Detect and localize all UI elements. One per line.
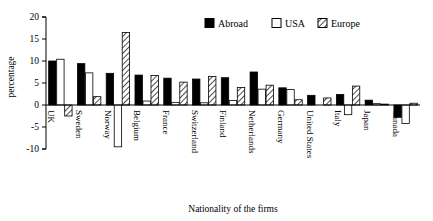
bar-abroad (193, 79, 200, 105)
bar-europe (266, 85, 273, 105)
y-axis-title-label: percentage (6, 56, 16, 97)
y-tick-label: 5 (34, 78, 39, 88)
category-label: UK (46, 110, 56, 123)
bar-europe (151, 76, 158, 105)
bar-abroad (164, 78, 171, 105)
bar-abroad (308, 95, 315, 105)
bar-usa (258, 89, 265, 105)
legend-swatch-usa (272, 19, 281, 28)
bar-abroad (135, 75, 142, 105)
bar-usa (229, 101, 236, 105)
bar-abroad (106, 73, 113, 105)
category-label: Netherlands (247, 110, 257, 154)
category-label: Norway (103, 110, 113, 139)
bar-usa (85, 73, 92, 105)
category-label: Finland (218, 110, 228, 138)
category-label: Sweden (74, 110, 84, 139)
bar-usa (143, 101, 150, 105)
y-tick-label: 20 (30, 12, 40, 22)
bar-chart: 20151050-5-10 percentage UKSwedenNorwayB… (0, 0, 433, 221)
chart-figure: 20151050-5-10 percentage UKSwedenNorwayB… (0, 0, 433, 221)
x-axis-title-label: Nationality of the firms (188, 204, 278, 214)
y-tick-label: 15 (30, 34, 40, 44)
bar-usa (114, 105, 121, 147)
category-label: Belgium (132, 110, 142, 141)
bar-europe (180, 82, 187, 105)
bar-usa (402, 105, 409, 123)
bar-usa (287, 90, 294, 105)
bar-abroad (279, 88, 286, 105)
legend-label-abroad: Abroad (218, 18, 248, 29)
y-tick-label: -5 (31, 122, 39, 132)
legend-swatch-abroad (205, 19, 214, 28)
bar-abroad (250, 72, 257, 105)
x-axis-title: Nationality of the firms (188, 204, 278, 214)
bar-abroad (221, 78, 228, 105)
bar-europe (209, 76, 216, 105)
legend-swatch-europe (318, 19, 327, 28)
bar-usa (57, 59, 64, 105)
bar-europe (122, 32, 129, 105)
bar-europe (295, 100, 302, 105)
y-tick-label: -10 (26, 144, 39, 154)
category-label: Switzerland (190, 110, 200, 153)
bar-abroad (49, 61, 56, 105)
bar-abroad (77, 64, 84, 105)
category-labels: UKSwedenNorwayBelgiumFranceSwitzerlandFi… (46, 110, 401, 159)
category-label: Canada (391, 110, 401, 137)
category-label: Italy (333, 110, 343, 127)
category-label: United States (305, 110, 315, 159)
category-label: France (161, 110, 171, 135)
bar-usa (344, 105, 351, 115)
y-tick-label: 0 (34, 100, 39, 110)
chart-legend: AbroadUSAEurope (205, 18, 360, 29)
bar-europe (237, 87, 244, 105)
bar-europe (65, 105, 72, 116)
y-tick-label: 10 (30, 56, 40, 66)
bar-europe (324, 98, 331, 105)
legend-label-usa: USA (285, 18, 306, 29)
bar-europe (93, 97, 100, 105)
y-axis: 20151050-5-10 (26, 12, 46, 154)
bar-abroad (336, 94, 343, 105)
y-axis-title: percentage (6, 56, 16, 97)
legend-label-europe: Europe (331, 18, 360, 29)
category-label: Japan (362, 110, 372, 131)
bar-europe (352, 86, 359, 105)
category-label: Germany (276, 110, 286, 144)
bar-abroad (365, 100, 372, 105)
